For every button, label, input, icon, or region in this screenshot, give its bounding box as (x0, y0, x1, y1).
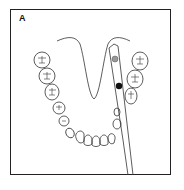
incisors (76, 131, 115, 146)
left-teeth (34, 52, 76, 139)
tongue-outline (57, 38, 130, 99)
right-teeth (113, 52, 148, 129)
dental-arch-diagram (0, 0, 184, 190)
periodontal-probe (109, 44, 133, 175)
gray-marker (112, 56, 118, 62)
black-marker (116, 83, 122, 89)
